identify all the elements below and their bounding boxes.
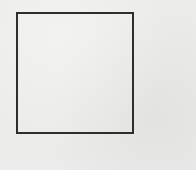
square-outline — [16, 12, 134, 134]
paper-background — [0, 0, 196, 170]
